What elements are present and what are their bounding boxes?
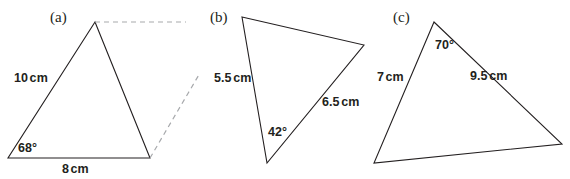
figure-label-c: (c) [393, 10, 410, 25]
side-length-label-a-2: 8cm [62, 163, 89, 176]
figure-label-a: (a) [50, 10, 67, 25]
dashed-guide-line-a-2 [150, 73, 200, 158]
triangle-a [8, 22, 150, 158]
side-length-label-c-2: 9.5cm [470, 70, 507, 83]
angle-label-a-1: 68° [18, 142, 37, 155]
side-length-label-b-2: 6.5cm [322, 96, 359, 109]
geometry-figure-canvas [0, 0, 570, 179]
triangle-b [242, 17, 364, 163]
side-length-label-b-1: 5.5cm [214, 72, 251, 85]
side-length-label-a-1: 10cm [14, 72, 48, 85]
figure-label-b: (b) [210, 10, 228, 25]
triangle-c [374, 22, 562, 163]
side-length-label-c-1: 7cm [377, 71, 404, 84]
angle-label-c-1: 70° [435, 39, 454, 52]
angle-label-b-1: 42° [268, 126, 287, 139]
